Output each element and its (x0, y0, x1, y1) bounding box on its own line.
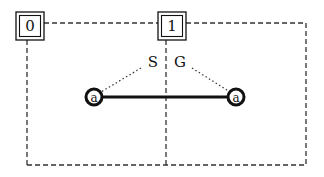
dotted-edge-s (101, 68, 141, 92)
node-left[interactable]: a (86, 89, 102, 105)
box-0[interactable]: 0 (16, 12, 44, 40)
node-right-label: a (232, 91, 239, 105)
box-1[interactable]: 1 (158, 12, 186, 40)
node-left-label: a (90, 91, 97, 105)
dashed-frame (27, 23, 306, 166)
edge-label-g: G (174, 53, 186, 71)
dotted-edge-g (192, 68, 230, 92)
box-0-label: 0 (25, 17, 35, 35)
box-1-label: 1 (167, 17, 177, 35)
edge-label-s: S (148, 53, 158, 71)
node-right[interactable]: a (228, 89, 244, 105)
diagram-canvas: 0 1 S G a a (0, 0, 324, 177)
